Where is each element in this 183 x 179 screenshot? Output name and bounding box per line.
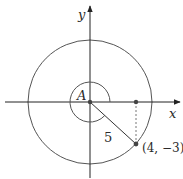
point-on-circle [134, 142, 139, 147]
diagram-canvas: y x A 5 (4, −3) [0, 0, 183, 179]
origin-point [88, 100, 92, 104]
point-label: (4, −3) [142, 141, 183, 155]
x-axis-label: x [169, 106, 177, 121]
angle-label: A [76, 88, 86, 103]
radius-label: 5 [104, 130, 112, 145]
x-axis-projection-point [134, 100, 138, 104]
y-axis-label: y [77, 7, 86, 22]
radius-line [90, 102, 136, 144]
